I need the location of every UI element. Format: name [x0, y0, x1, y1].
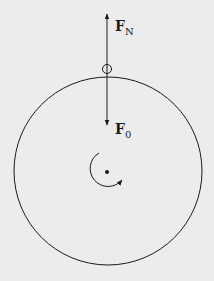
applied-force-label: F0 [115, 121, 131, 140]
normal-force-label: FN [115, 18, 134, 37]
rotation-arrow-icon [90, 153, 122, 186]
axle-dot [105, 170, 109, 174]
diagram-canvas: FN F0 [0, 0, 214, 281]
